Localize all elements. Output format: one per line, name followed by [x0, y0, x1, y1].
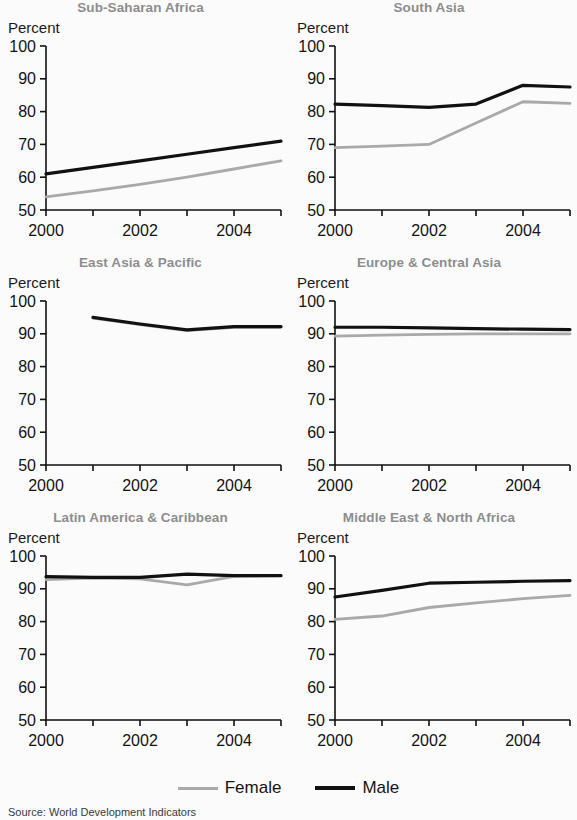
y-axis-label: Percent: [8, 274, 60, 291]
svg-text:2004: 2004: [505, 732, 541, 749]
plot-area: 5060708090100200020022004: [0, 291, 289, 503]
source-note: Source: World Development Indicators: [8, 806, 196, 818]
chart-panel: East Asia & PacificPercent50607080901002…: [0, 255, 289, 510]
svg-text:70: 70: [18, 136, 36, 153]
svg-text:50: 50: [18, 712, 36, 729]
svg-text:80: 80: [18, 358, 36, 375]
svg-text:2000: 2000: [317, 732, 353, 749]
svg-text:60: 60: [307, 679, 325, 696]
svg-text:100: 100: [9, 548, 36, 565]
svg-text:2002: 2002: [411, 477, 447, 494]
plot-area: 5060708090100200020022004: [0, 36, 289, 248]
svg-text:80: 80: [307, 358, 325, 375]
svg-text:80: 80: [307, 103, 325, 120]
svg-text:100: 100: [298, 293, 325, 310]
svg-text:60: 60: [18, 424, 36, 441]
svg-text:50: 50: [307, 202, 325, 219]
svg-text:2004: 2004: [216, 732, 252, 749]
svg-text:2004: 2004: [216, 222, 252, 239]
legend-item-female: Female: [178, 778, 282, 798]
svg-text:50: 50: [307, 457, 325, 474]
svg-text:2002: 2002: [411, 732, 447, 749]
panel-title: Europe & Central Asia: [289, 255, 569, 270]
panel-title: South Asia: [289, 0, 569, 15]
svg-text:2004: 2004: [505, 222, 541, 239]
plot-area: 5060708090100200020022004: [0, 546, 289, 758]
y-axis-label: Percent: [8, 529, 60, 546]
svg-text:2002: 2002: [122, 222, 158, 239]
chart-legend: FemaleMale: [0, 775, 577, 801]
svg-text:80: 80: [307, 613, 325, 630]
svg-text:90: 90: [307, 70, 325, 87]
svg-text:70: 70: [307, 391, 325, 408]
svg-text:70: 70: [307, 646, 325, 663]
svg-text:2000: 2000: [28, 477, 64, 494]
panel-title: Sub-Saharan Africa: [0, 0, 281, 15]
svg-text:100: 100: [9, 38, 36, 55]
svg-text:90: 90: [307, 580, 325, 597]
svg-text:50: 50: [307, 712, 325, 729]
svg-text:90: 90: [307, 325, 325, 342]
svg-text:50: 50: [18, 202, 36, 219]
svg-text:100: 100: [9, 293, 36, 310]
legend-line-icon: [178, 787, 218, 790]
legend-label: Male: [362, 778, 399, 798]
plot-area: 5060708090100200020022004: [289, 291, 577, 503]
svg-text:2002: 2002: [411, 222, 447, 239]
chart-panel: Latin America & CaribbeanPercent50607080…: [0, 510, 289, 768]
y-axis-label: Percent: [297, 529, 349, 546]
svg-text:90: 90: [18, 325, 36, 342]
panel-title: Latin America & Caribbean: [0, 510, 281, 525]
svg-text:2000: 2000: [317, 477, 353, 494]
svg-text:70: 70: [307, 136, 325, 153]
plot-area: 5060708090100200020022004: [289, 36, 577, 248]
panel-title: Middle East & North Africa: [289, 510, 569, 525]
svg-text:60: 60: [307, 169, 325, 186]
chart-panel: Middle East & North AfricaPercent5060708…: [289, 510, 577, 768]
svg-text:100: 100: [298, 548, 325, 565]
svg-text:80: 80: [18, 103, 36, 120]
svg-text:80: 80: [18, 613, 36, 630]
legend-line-icon: [315, 786, 355, 790]
svg-text:2000: 2000: [317, 222, 353, 239]
svg-text:2000: 2000: [28, 222, 64, 239]
svg-text:90: 90: [18, 70, 36, 87]
svg-text:2002: 2002: [122, 477, 158, 494]
y-axis-label: Percent: [297, 19, 349, 36]
chart-panel: South AsiaPercent50607080901002000200220…: [289, 0, 577, 255]
plot-area: 5060708090100200020022004: [289, 546, 577, 758]
panel-title: East Asia & Pacific: [0, 255, 281, 270]
svg-text:90: 90: [18, 580, 36, 597]
chart-panel: Sub-Saharan AfricaPercent506070809010020…: [0, 0, 289, 255]
svg-text:60: 60: [307, 424, 325, 441]
svg-text:100: 100: [298, 38, 325, 55]
svg-text:2002: 2002: [122, 732, 158, 749]
svg-text:60: 60: [18, 169, 36, 186]
svg-text:70: 70: [18, 391, 36, 408]
svg-text:60: 60: [18, 679, 36, 696]
panel-grid: Sub-Saharan AfricaPercent506070809010020…: [0, 0, 577, 775]
svg-text:2004: 2004: [505, 477, 541, 494]
y-axis-label: Percent: [8, 19, 60, 36]
legend-label: Female: [225, 778, 282, 798]
svg-text:2000: 2000: [28, 732, 64, 749]
legend-item-male: Male: [315, 778, 399, 798]
svg-text:70: 70: [18, 646, 36, 663]
svg-text:2004: 2004: [216, 477, 252, 494]
y-axis-label: Percent: [297, 274, 349, 291]
chart-panel: Europe & Central AsiaPercent506070809010…: [289, 255, 577, 510]
svg-text:50: 50: [18, 457, 36, 474]
